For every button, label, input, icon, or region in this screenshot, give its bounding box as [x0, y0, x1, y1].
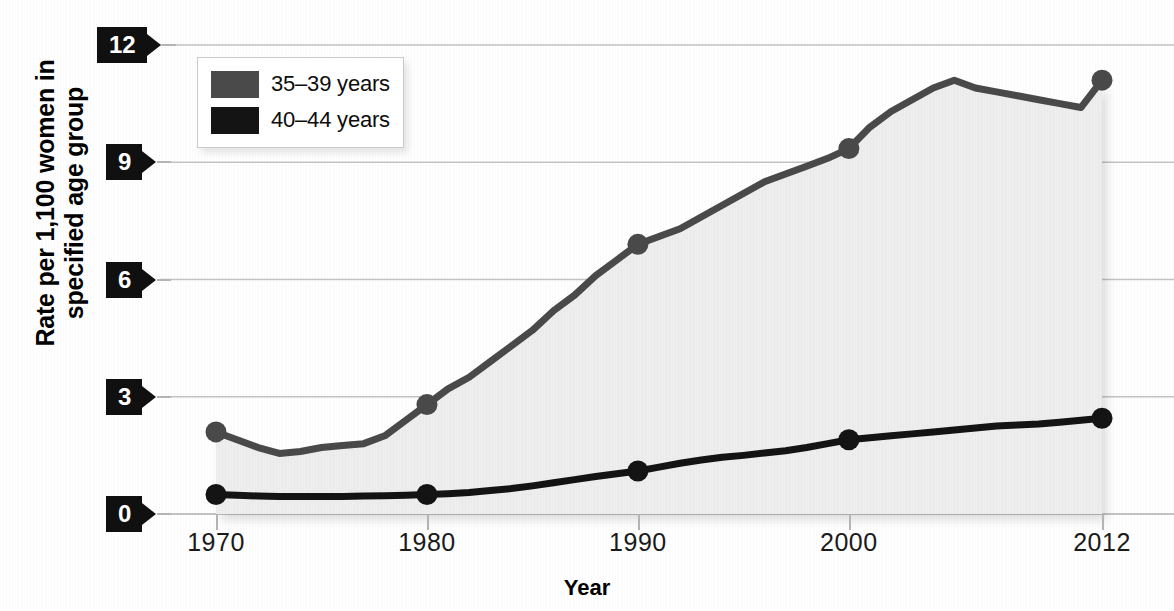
legend-label-40-44: 40–44 years [271, 107, 390, 133]
y-axis-title-line-1: Rate per 1,100 women in [31, 59, 61, 346]
plot-area [0, 0, 1174, 611]
legend-item-35-39: 35–39 years [211, 66, 403, 102]
x-axis-tick-label-1990: 1990 [578, 528, 698, 557]
legend-item-40-44: 40–44 years [211, 102, 403, 138]
legend-swatch-35-39 [211, 71, 259, 98]
y-axis-title-line-2: specified age group [60, 59, 90, 346]
x-axis-tick-label-1980: 1980 [367, 528, 487, 557]
y-axis-title: Rate per 1,100 women in specified age gr… [27, 0, 93, 413]
legend-swatch-40-44 [211, 107, 259, 134]
x-axis-tick-label-1970: 1970 [156, 528, 276, 557]
legend: 35–39 years 40–44 years [197, 57, 404, 148]
x-axis-tick-label-2012: 2012 [1042, 528, 1162, 557]
chart-container: 129630 19701980199020002012 Rate per 1,1… [0, 0, 1174, 611]
legend-label-35-39: 35–39 years [271, 71, 390, 97]
x-axis-title: Year [0, 575, 1174, 601]
x-axis-tick-label-2000: 2000 [789, 528, 909, 557]
